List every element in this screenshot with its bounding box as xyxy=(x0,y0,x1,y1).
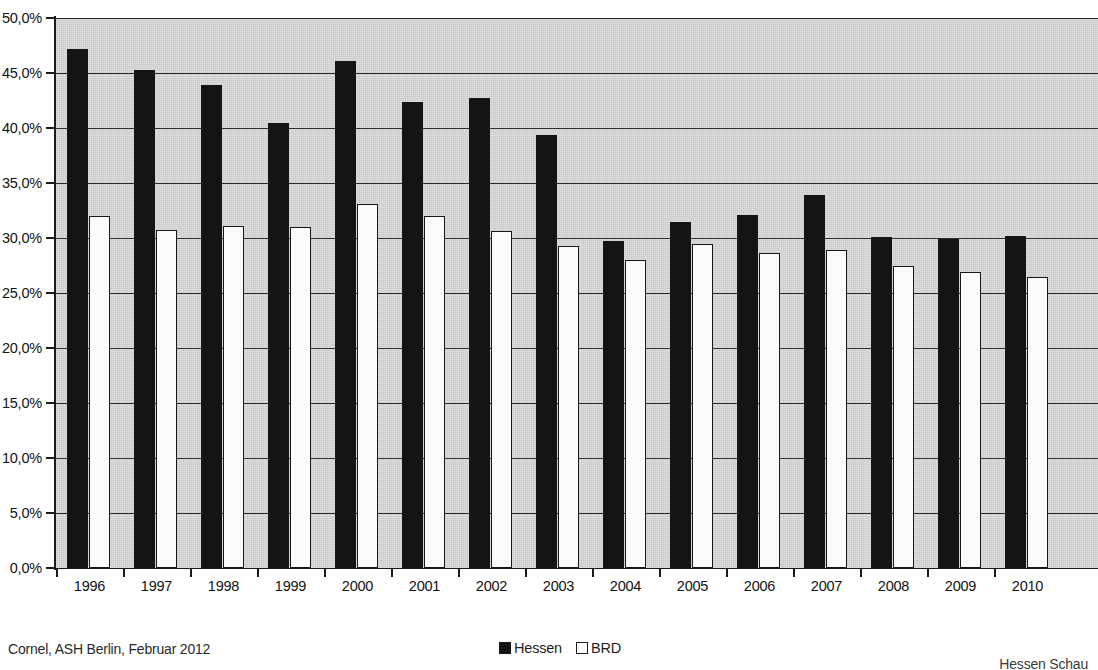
bar-brd xyxy=(1027,277,1048,569)
bar-brd xyxy=(424,216,445,568)
y-axis-tick-label: 35,0% xyxy=(2,175,42,191)
bar-hessen xyxy=(670,222,691,569)
x-axis-tick-label: 2006 xyxy=(744,578,775,594)
x-axis-labels: 1996199719981999200020012002200320042005… xyxy=(56,578,1098,604)
y-axis-tick-mark xyxy=(46,347,55,349)
x-axis-tick-mark xyxy=(860,569,862,577)
bar-brd xyxy=(893,266,914,569)
bar-group xyxy=(190,18,257,568)
bar-brd xyxy=(558,246,579,568)
bar-group xyxy=(860,18,927,568)
y-axis-tick-label: 15,0% xyxy=(2,395,42,411)
x-axis-tick-label: 1998 xyxy=(208,578,239,594)
x-axis-tick-mark xyxy=(391,569,393,577)
y-axis-tick-label: 45,0% xyxy=(2,65,42,81)
x-axis-tick-label: 2010 xyxy=(1012,578,1043,594)
chart-legend: Hessen BRD xyxy=(499,640,621,656)
y-axis-tick-mark xyxy=(46,237,55,239)
y-axis-tick-label: 25,0% xyxy=(2,285,42,301)
bar-brd xyxy=(223,226,244,568)
x-axis-tick-mark xyxy=(793,569,795,577)
y-axis-tick-label: 20,0% xyxy=(2,340,42,356)
bar-hessen xyxy=(402,102,423,568)
legend-swatch-icon-hessen xyxy=(499,642,511,654)
y-axis-tick-label: 30,0% xyxy=(2,230,42,246)
x-axis-tick-label: 2009 xyxy=(945,578,976,594)
y-axis-tick-label: 40,0% xyxy=(2,120,42,136)
bar-group xyxy=(458,18,525,568)
y-axis-tick-mark xyxy=(46,402,55,404)
bar-group xyxy=(793,18,860,568)
x-axis-tick-mark xyxy=(659,569,661,577)
x-axis-tick-label: 2003 xyxy=(543,578,574,594)
x-axis-tick-mark xyxy=(458,569,460,577)
bar-brd xyxy=(960,272,981,568)
y-axis-tick-mark xyxy=(46,17,55,19)
bar-group xyxy=(257,18,324,568)
bar-group xyxy=(994,18,1061,568)
y-axis-tick-mark xyxy=(46,512,55,514)
bar-group xyxy=(525,18,592,568)
right-caption: Hessen Schau xyxy=(999,656,1088,670)
x-axis-tick-mark xyxy=(324,569,326,577)
y-axis-tick-mark xyxy=(46,182,55,184)
y-axis-tick-label: 10,0% xyxy=(2,450,42,466)
bars-layer xyxy=(56,18,1098,568)
bar-group xyxy=(391,18,458,568)
bar-brd xyxy=(357,204,378,568)
bar-hessen xyxy=(536,135,557,568)
legend-item-hessen: Hessen xyxy=(499,640,562,656)
x-axis-tick-label: 2002 xyxy=(476,578,507,594)
bar-brd xyxy=(625,260,646,568)
y-axis-tick-mark xyxy=(46,292,55,294)
x-axis-tick-mark xyxy=(190,569,192,577)
plot-area xyxy=(56,18,1098,568)
bar-brd xyxy=(491,231,512,568)
x-axis-tick-mark xyxy=(927,569,929,577)
x-axis-tick-label: 2004 xyxy=(610,578,641,594)
x-axis-tick-label: 2008 xyxy=(878,578,909,594)
legend-label-hessen: Hessen xyxy=(514,640,562,656)
bar-hessen xyxy=(67,49,88,568)
bar-hessen xyxy=(134,70,155,568)
legend-item-brd: BRD xyxy=(576,640,621,656)
x-axis-tick-label: 2001 xyxy=(409,578,440,594)
legend-label-brd: BRD xyxy=(591,640,621,656)
x-axis-tick-mark xyxy=(257,569,259,577)
bar-hessen xyxy=(737,215,758,568)
bar-hessen xyxy=(804,195,825,568)
bar-hessen xyxy=(1005,236,1026,568)
x-axis-tick-label: 2005 xyxy=(677,578,708,594)
bar-group xyxy=(659,18,726,568)
bar-hessen xyxy=(201,85,222,568)
x-axis-tick-mark xyxy=(726,569,728,577)
bar-group xyxy=(592,18,659,568)
y-axis-tick-label: 50,0% xyxy=(2,10,42,26)
y-axis-tick-label: 5,0% xyxy=(10,505,42,521)
x-axis-tick-mark xyxy=(994,569,996,577)
bar-group xyxy=(927,18,994,568)
bar-group xyxy=(56,18,123,568)
bar-hessen xyxy=(335,61,356,568)
y-axis-tick-mark xyxy=(46,127,55,129)
y-axis-tick-mark xyxy=(46,457,55,459)
bar-brd xyxy=(156,230,177,568)
bar-brd xyxy=(826,250,847,568)
x-axis-tick-label: 1999 xyxy=(275,578,306,594)
bar-brd xyxy=(759,253,780,568)
bar-hessen xyxy=(938,239,959,568)
x-axis-tick-label: 2007 xyxy=(811,578,842,594)
x-axis-tick-mark xyxy=(123,569,125,577)
bar-group xyxy=(324,18,391,568)
x-axis-tick-label: 2000 xyxy=(342,578,373,594)
bar-hessen xyxy=(268,123,289,569)
bar-group xyxy=(726,18,793,568)
legend-swatch-icon-brd xyxy=(576,642,588,654)
chart-footer: Cornel, ASH Berlin, Februar 2012 Hessen … xyxy=(0,636,1098,664)
bar-brd xyxy=(89,216,110,568)
x-axis-tick-mark xyxy=(56,569,58,577)
bar-brd xyxy=(290,227,311,568)
y-axis-tick-mark xyxy=(46,567,55,569)
bar-hessen xyxy=(469,98,490,568)
